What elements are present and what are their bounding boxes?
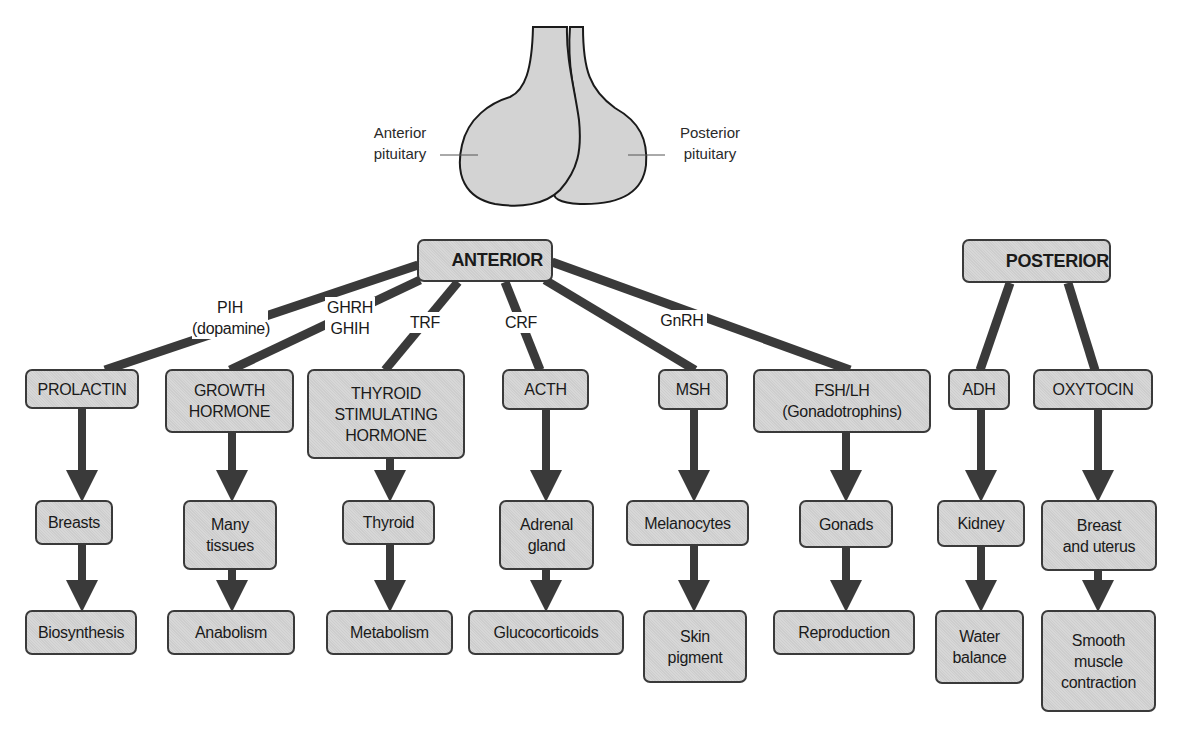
hormone-growth-hormone: GROWTH HORMONE — [165, 369, 294, 433]
hormone-fsh-lh: FSH/LH (Gonadotrophins) — [753, 369, 931, 433]
connector-posterior-adh — [980, 283, 1010, 370]
hormone-prolactin: PROLACTIN — [25, 369, 139, 409]
target-many-tissues: Many tissues — [183, 500, 277, 570]
target-melanocytes: Melanocytes — [626, 500, 749, 546]
releasing-factor-ghrh-ghih: GHRH GHIH — [325, 297, 375, 339]
connector-posterior-oxytocin — [1068, 283, 1095, 370]
anterior-header-box: ANTERIOR — [417, 239, 553, 282]
posterior-header-box: POSTERIOR — [962, 239, 1111, 283]
anterior-lobe-shape — [460, 27, 580, 206]
target-adrenal-gland: Adrenal gland — [499, 500, 594, 570]
effect-anabolism: Anabolism — [167, 610, 295, 655]
target-breasts: Breasts — [35, 500, 113, 545]
releasing-factor-pih: PIH (dopamine) — [192, 297, 268, 339]
effect-metabolism: Metabolism — [326, 610, 453, 655]
effect-smooth-muscle-contraction: Smooth muscle contraction — [1041, 610, 1156, 712]
hormone-acth: ACTH — [502, 369, 589, 410]
posterior-pituitary-label: Posterior pituitary — [668, 122, 752, 164]
effect-reproduction: Reproduction — [773, 610, 915, 655]
anterior-pituitary-label: Anterior pituitary — [360, 122, 440, 164]
effect-glucocorticoids: Glucocorticoids — [468, 610, 624, 655]
target-kidney: Kidney — [937, 500, 1025, 547]
pituitary-gland-illustration — [440, 27, 665, 206]
target-gonads: Gonads — [799, 500, 893, 548]
releasing-factor-crf: CRF — [500, 312, 542, 333]
effect-skin-pigment: Skin pigment — [643, 610, 747, 683]
pituitary-hormone-diagram: Anterior pituitary Posterior pituitary P… — [0, 0, 1181, 732]
effect-biosynthesis: Biosynthesis — [25, 610, 137, 655]
hormone-oxytocin: OXYTOCIN — [1033, 369, 1153, 410]
hormone-msh: MSH — [658, 369, 728, 410]
releasing-factor-gnrh: GnRH — [657, 310, 707, 331]
target-breast-and-uterus: Breast and uterus — [1041, 500, 1157, 571]
releasing-factor-trf: TRF — [405, 312, 445, 333]
hormone-adh: ADH — [948, 369, 1010, 410]
effect-water-balance: Water balance — [935, 610, 1024, 684]
hormone-thyroid-stimulating: THYROID STIMULATING HORMONE — [307, 369, 465, 459]
target-thyroid: Thyroid — [342, 500, 435, 545]
